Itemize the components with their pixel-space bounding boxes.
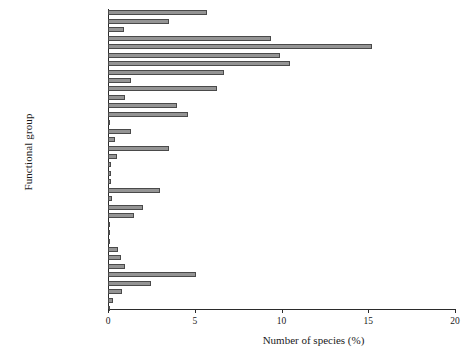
bar xyxy=(108,44,372,49)
bar-row xyxy=(108,178,455,186)
x-axis-tick xyxy=(195,309,196,313)
bar xyxy=(108,137,115,142)
bar-row xyxy=(108,237,455,245)
bar-row xyxy=(108,203,455,211)
bar-row xyxy=(108,43,455,51)
bar xyxy=(108,27,124,32)
bar-row xyxy=(108,127,455,135)
x-axis-label: Number of species (%) xyxy=(0,334,471,346)
bar-row xyxy=(108,170,455,178)
bar xyxy=(108,298,113,303)
bar xyxy=(108,196,112,201)
bar xyxy=(108,61,290,66)
bar xyxy=(108,146,169,151)
bar-row xyxy=(108,186,455,194)
bar-row xyxy=(108,60,455,68)
bar-row xyxy=(108,263,455,271)
bar xyxy=(108,264,125,269)
bar xyxy=(108,19,169,24)
bar xyxy=(108,205,143,210)
bar xyxy=(108,281,151,286)
bar-row xyxy=(108,17,455,25)
bar xyxy=(108,103,177,108)
bar xyxy=(108,78,131,83)
bar xyxy=(108,10,207,15)
bar-row xyxy=(108,195,455,203)
bar-row xyxy=(108,144,455,152)
bar-row xyxy=(108,271,455,279)
bar xyxy=(108,70,224,75)
bar xyxy=(108,53,280,58)
bar xyxy=(108,188,160,193)
bar-row xyxy=(108,279,455,287)
x-axis-tick-label: 10 xyxy=(267,316,297,326)
bar-row xyxy=(108,102,455,110)
bar-row xyxy=(108,51,455,59)
bar-row xyxy=(108,220,455,228)
x-axis-tick-label: 20 xyxy=(440,316,470,326)
bar xyxy=(108,162,111,167)
bar-chart: Functional group Number of species (%) S… xyxy=(0,0,471,361)
bar xyxy=(108,154,117,159)
bar-row xyxy=(108,110,455,118)
bar-row xyxy=(108,161,455,169)
bar xyxy=(108,86,217,91)
x-axis-tick xyxy=(282,309,283,313)
bar-row xyxy=(108,246,455,254)
bar-row xyxy=(108,94,455,102)
bar xyxy=(108,213,134,218)
x-axis-tick-label: 15 xyxy=(353,316,383,326)
plot-area xyxy=(108,9,455,309)
bar-row xyxy=(108,212,455,220)
bar xyxy=(108,129,131,134)
bar xyxy=(108,120,110,125)
x-axis-tick-label: 5 xyxy=(180,316,210,326)
bar-row xyxy=(108,296,455,304)
bar-row xyxy=(108,9,455,17)
x-axis-label-text: Number of species (%) xyxy=(263,334,365,346)
bar-row xyxy=(108,34,455,42)
bar xyxy=(108,222,110,227)
bar-row xyxy=(108,254,455,262)
bar xyxy=(108,95,125,100)
bar xyxy=(108,255,121,260)
x-axis-tick-label: 0 xyxy=(93,316,123,326)
bar xyxy=(108,239,110,244)
bar-row xyxy=(108,153,455,161)
bar xyxy=(108,179,111,184)
bar-row xyxy=(108,26,455,34)
bar xyxy=(108,272,196,277)
bar-row xyxy=(108,77,455,85)
bar xyxy=(108,247,118,252)
bar-row xyxy=(108,229,455,237)
bar xyxy=(108,230,110,235)
bar-row xyxy=(108,136,455,144)
bar-row xyxy=(108,119,455,127)
y-axis-label: Functional group xyxy=(22,82,34,222)
x-axis-tick xyxy=(108,309,109,313)
x-axis-tick xyxy=(368,309,369,313)
bar xyxy=(108,171,111,176)
bar-row xyxy=(108,68,455,76)
bar xyxy=(108,289,122,294)
bar xyxy=(108,36,271,41)
x-axis-tick xyxy=(455,309,456,313)
bar xyxy=(108,112,188,117)
bar-row xyxy=(108,288,455,296)
bar-row xyxy=(108,85,455,93)
